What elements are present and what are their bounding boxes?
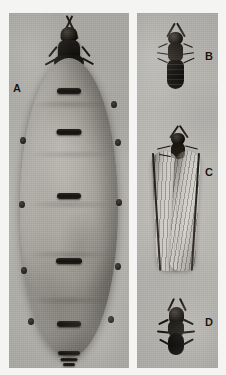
spiracle bbox=[21, 267, 27, 274]
soldier-leg bbox=[157, 58, 168, 64]
queen-leg bbox=[81, 46, 90, 57]
alate-leg bbox=[185, 145, 198, 149]
dealate-leg bbox=[182, 338, 193, 345]
dealate-leg bbox=[157, 330, 169, 333]
abdomen-tergite-band bbox=[56, 258, 82, 264]
dealate-leg bbox=[183, 319, 194, 325]
abdomen-tergite-band bbox=[63, 363, 75, 366]
abdomen-tergite-band bbox=[57, 88, 81, 94]
spiracle bbox=[28, 318, 34, 325]
spiracle bbox=[111, 101, 117, 108]
specimen-queen bbox=[16, 13, 122, 368]
spiracle bbox=[116, 199, 122, 206]
abdomen-tergite-band bbox=[58, 351, 80, 355]
abdomen-tergite-band bbox=[57, 321, 81, 327]
soldier-leg bbox=[157, 52, 168, 55]
specimen-dealate bbox=[154, 301, 198, 363]
alate-leg bbox=[157, 145, 171, 150]
dealate-leg bbox=[183, 330, 195, 333]
spiracle bbox=[19, 201, 25, 208]
plate-letter-d: D bbox=[205, 317, 213, 328]
soldier-abdomen bbox=[167, 59, 184, 89]
queen-leg bbox=[48, 46, 57, 57]
panel-bcd-castes bbox=[137, 13, 218, 368]
plate-letter-a: A bbox=[13, 83, 21, 94]
queen-abdomen bbox=[20, 58, 118, 358]
soldier-leg bbox=[183, 52, 194, 55]
plate-letter-c: C bbox=[205, 167, 213, 178]
soldier-leg bbox=[183, 43, 193, 48]
panel-a-queen bbox=[9, 13, 129, 368]
abdomen-tergite-band bbox=[61, 358, 78, 361]
abdomen-tergite-band bbox=[57, 129, 82, 135]
spiracle bbox=[115, 263, 121, 270]
specimen-soldier bbox=[155, 23, 195, 95]
spiracle bbox=[115, 139, 121, 146]
photographic-plate: A B C D bbox=[0, 0, 226, 375]
plate-letter-b: B bbox=[205, 51, 213, 62]
abdomen-tergite-band bbox=[57, 193, 81, 199]
soldier-leg bbox=[183, 58, 195, 64]
specimen-alate bbox=[145, 125, 207, 275]
soldier-leg bbox=[158, 43, 168, 48]
spiracle bbox=[20, 137, 26, 144]
spiracle bbox=[108, 316, 114, 323]
